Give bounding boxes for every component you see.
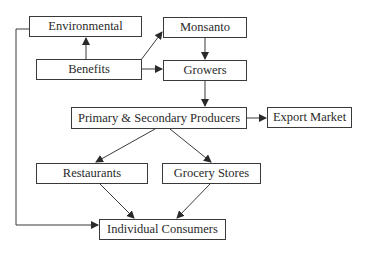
edge-producers-grocery bbox=[170, 129, 211, 162]
edge-producers-restaurants bbox=[96, 129, 155, 162]
node-monsanto: Monsanto bbox=[163, 17, 247, 38]
edge-grocery-consumers bbox=[177, 184, 210, 218]
node-benefits: Benefits bbox=[36, 59, 142, 80]
node-export-market: Export Market bbox=[267, 107, 352, 128]
node-individual-consumers: Individual Consumers bbox=[99, 219, 226, 240]
edge-benefits-monsanto bbox=[141, 32, 162, 60]
edge-restaurants-consumers bbox=[100, 184, 134, 218]
node-environmental: Environmental bbox=[29, 16, 142, 37]
node-growers: Growers bbox=[163, 60, 247, 81]
node-grocery-stores: Grocery Stores bbox=[162, 163, 261, 184]
node-restaurants: Restaurants bbox=[36, 163, 148, 184]
node-primary-secondary-producers: Primary & Secondary Producers bbox=[71, 107, 247, 129]
